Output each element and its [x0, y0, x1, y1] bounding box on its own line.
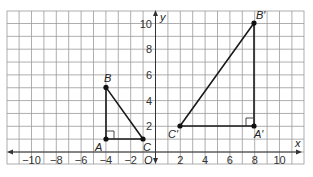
x-tick-label: −4 — [100, 154, 113, 166]
x-axis-label: x — [294, 137, 301, 149]
x-tick-label: 6 — [227, 154, 233, 166]
label-c: C — [143, 141, 151, 153]
label-b: B — [104, 72, 111, 84]
triangle-abc: A B C — [94, 72, 151, 153]
label-c-prime: C′ — [168, 128, 179, 140]
y-tick-label: 10 — [140, 18, 152, 30]
point-a — [103, 136, 108, 141]
x-axis-left-arrow-icon — [7, 150, 13, 155]
x-tick-label: 2 — [177, 154, 183, 166]
y-tick-label: 8 — [146, 43, 152, 55]
coordinate-plane: x y O −10−8−6−4−2246810 246810 A B C A′ … — [0, 0, 313, 177]
y-tick-label: 6 — [146, 69, 152, 81]
y-tick-label: 4 — [146, 95, 152, 107]
x-axis-right-arrow-icon — [296, 150, 302, 155]
label-a: A — [94, 141, 102, 153]
label-b-prime: B′ — [256, 9, 266, 21]
x-tick-label: −8 — [50, 154, 63, 166]
origin-label: O — [144, 154, 153, 166]
x-tick-label: 8 — [252, 154, 258, 166]
label-a-prime: A′ — [253, 128, 264, 140]
x-tick-label: 10 — [273, 154, 285, 166]
x-tick-label: 4 — [202, 154, 208, 166]
point-c-prime — [177, 123, 182, 128]
x-tick-label: −2 — [124, 154, 137, 166]
x-tick-label: −10 — [22, 154, 41, 166]
y-axis-down-arrow-icon — [153, 158, 158, 164]
y-axis-label: y — [159, 11, 167, 23]
y-tick-label: 2 — [146, 120, 152, 132]
point-b-prime — [251, 20, 256, 25]
point-b — [103, 85, 108, 90]
x-tick-label: −6 — [75, 154, 88, 166]
